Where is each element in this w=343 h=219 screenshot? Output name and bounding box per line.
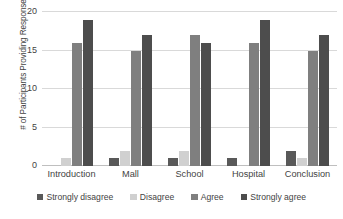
bar-group [42, 12, 101, 166]
y-tick-label: 15 [27, 45, 37, 55]
bar-group [278, 12, 337, 166]
bar-group [101, 12, 160, 166]
legend-swatch-icon [130, 194, 137, 201]
bar [308, 51, 318, 167]
x-axis-labels: IntroductionMallSchoolHospitalConclusion [42, 169, 337, 179]
y-tick-label: 0 [32, 160, 37, 170]
bar [190, 35, 200, 166]
x-axis-label-conclusion: Conclusion [278, 169, 337, 179]
bar-group [160, 12, 219, 166]
x-axis-label-hospital: Hospital [219, 169, 278, 179]
bar [168, 158, 178, 166]
bar [131, 51, 141, 167]
legend-label: Strongly agree [250, 192, 306, 202]
bar [72, 43, 82, 166]
plot-area: 05101520 [42, 12, 337, 166]
bar [227, 158, 237, 166]
bar [297, 158, 307, 166]
legend-item[interactable]: Strongly disagree [37, 192, 113, 202]
legend-item[interactable]: Strongly agree [241, 192, 306, 202]
bar-chart: # of Participants Providing Response 051… [0, 0, 343, 219]
legend-label: Disagree [140, 192, 174, 202]
x-axis-label-school: School [160, 169, 219, 179]
bar [61, 158, 71, 166]
bar-groups [42, 12, 337, 166]
bar [142, 35, 152, 166]
legend-label: Strongly disagree [46, 192, 113, 202]
y-tick-label: 5 [32, 122, 37, 132]
bar [249, 43, 259, 166]
bar [201, 43, 211, 166]
legend-swatch-icon [37, 194, 44, 201]
bar [319, 35, 329, 166]
bar-group [219, 12, 278, 166]
legend-label: Agree [201, 192, 224, 202]
legend-item[interactable]: Agree [191, 192, 223, 202]
bar [109, 158, 119, 166]
bar [179, 151, 189, 166]
legend-swatch-icon [191, 194, 198, 201]
bar [120, 151, 130, 166]
bar [286, 151, 296, 166]
x-axis-label-introduction: Introduction [42, 169, 101, 179]
legend: Strongly disagreeDisagreeAgreeStrongly a… [0, 192, 343, 202]
bar [83, 20, 93, 166]
y-tick-label: 20 [27, 6, 37, 16]
legend-swatch-icon [241, 194, 248, 201]
bar [260, 20, 270, 166]
x-axis-label-mall: Mall [101, 169, 160, 179]
y-axis-title: # of Participants Providing Response [19, 0, 28, 140]
legend-item[interactable]: Disagree [130, 192, 174, 202]
y-tick-label: 10 [27, 83, 37, 93]
